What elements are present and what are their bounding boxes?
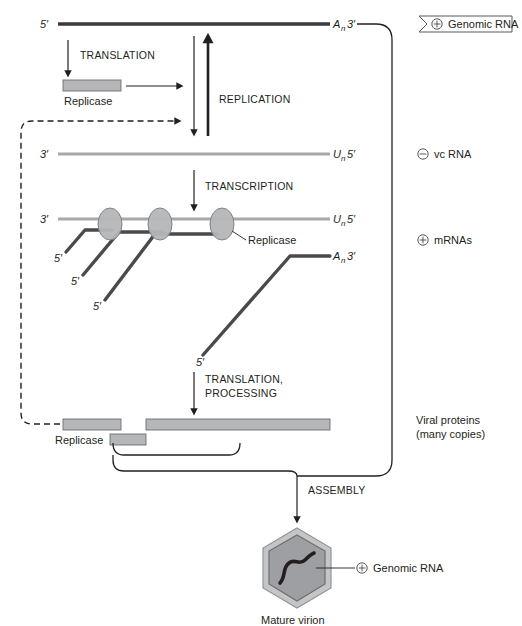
genomic-rna-3prime-label: 3′ bbox=[347, 18, 356, 30]
mrna-template-5prime-label: 5′ bbox=[347, 213, 356, 225]
genomic-rna-side-banner: Genomic RNA bbox=[419, 16, 519, 32]
viral-protein-bar-small bbox=[110, 434, 146, 445]
replicase-product-label: Replicase bbox=[55, 434, 103, 446]
genomic-to-assembly-connector bbox=[297, 24, 392, 476]
mrna-transcript-4-5prime: 5′ bbox=[196, 356, 205, 368]
dashed-feedback-arrow-icon bbox=[21, 121, 178, 424]
replication-arrows-group: REPLICATION bbox=[194, 36, 290, 136]
translation-arrow-group: TRANSLATION bbox=[68, 40, 155, 74]
transcription-arrow-group: TRANSCRIPTION bbox=[194, 170, 293, 208]
plus-circle-glyph bbox=[420, 237, 427, 244]
viral-proteins-label-line2: (many copies) bbox=[416, 428, 485, 440]
genomic-rna-group: 5′ A n 3′ bbox=[40, 18, 356, 33]
genomic-rna-5prime-label: 5′ bbox=[40, 18, 49, 30]
mrna-transcript-4-polya: A bbox=[332, 250, 340, 262]
mrna-synthesis-group: 3′ U n 5′ Replicase 5′ 5′ 5′ 5′ A n bbox=[40, 208, 356, 368]
vc-rna-side-label: vc RNA bbox=[434, 148, 472, 160]
viral-protein-bars-group: Replicase bbox=[55, 419, 330, 446]
vc-rna-5prime-label: 5′ bbox=[347, 148, 356, 160]
viral-proteins-side-label-group: Viral proteins (many copies) bbox=[416, 414, 485, 440]
replicase-protein-bar bbox=[63, 80, 121, 91]
transcription-label: TRANSCRIPTION bbox=[205, 180, 293, 192]
mrna-template-polyu-label: U bbox=[333, 213, 341, 225]
mature-virion-label: Mature virion bbox=[261, 614, 325, 626]
genomic-rna-side-label: Genomic RNA bbox=[448, 18, 519, 30]
virion-genomic-rna-label: Genomic RNA bbox=[373, 562, 444, 574]
mrna-template-polyu-subscript: n bbox=[341, 219, 346, 228]
mrna-side-label-group: mRNAs bbox=[418, 234, 473, 246]
replicase-callout-leader bbox=[232, 231, 246, 240]
vc-rna-3prime-label: 3′ bbox=[40, 148, 49, 160]
assembly-arrow-group: ASSEMBLY bbox=[297, 476, 365, 520]
mrna-transcript-4-complete bbox=[203, 256, 330, 355]
replicase-callout-label: Replicase bbox=[248, 234, 296, 246]
mrna-transcript-3-5prime: 5′ bbox=[93, 300, 102, 312]
mrna-transcript-4-3prime: 3′ bbox=[347, 250, 356, 262]
mrna-transcript-2-5prime: 5′ bbox=[71, 275, 80, 287]
vc-rna-polyu-label: U bbox=[333, 148, 341, 160]
mrna-template-3prime-label: 3′ bbox=[40, 213, 49, 225]
replicase-oval-icon bbox=[210, 208, 234, 240]
virus-replication-diagram: 5′ A n 3′ Genomic RNA TRANSLATION Replic… bbox=[0, 0, 522, 626]
replicase-protein-label: Replicase bbox=[64, 95, 112, 107]
mrna-side-label: mRNAs bbox=[434, 234, 472, 246]
genomic-rna-polya-subscript: n bbox=[341, 24, 346, 33]
replicase-oval-icon bbox=[148, 208, 172, 240]
translation-processing-label-line2: PROCESSING bbox=[205, 387, 277, 399]
plus-circle-glyph bbox=[359, 565, 366, 572]
vc-rna-polyu-subscript: n bbox=[341, 154, 346, 163]
viral-proteins-label-line1: Viral proteins bbox=[416, 414, 480, 426]
brace-stem-connector bbox=[113, 455, 297, 476]
replicase-product-bar bbox=[63, 419, 121, 430]
vc-rna-group: 3′ U n 5′ bbox=[40, 148, 356, 163]
mrna-transcript-3 bbox=[105, 234, 217, 300]
assembly-label: ASSEMBLY bbox=[308, 484, 365, 496]
mature-virion-group: Genomic RNA Mature virion bbox=[261, 528, 444, 626]
translation-processing-arrow-group: TRANSLATION, PROCESSING bbox=[194, 372, 283, 412]
mrna-transcript-1-5prime: 5′ bbox=[54, 252, 63, 264]
vc-rna-side-label-group: vc RNA bbox=[418, 148, 472, 160]
figure-canvas: 5′ A n 3′ Genomic RNA TRANSLATION Replic… bbox=[0, 0, 522, 626]
genomic-rna-polya-label: A bbox=[332, 18, 340, 30]
replicase-oval-icon bbox=[98, 208, 122, 240]
translation-label: TRANSLATION bbox=[80, 49, 155, 61]
viral-protein-bar-large bbox=[146, 419, 330, 430]
translation-processing-label-line1: TRANSLATION, bbox=[205, 373, 283, 385]
protein-brace-group bbox=[113, 443, 297, 476]
mrna-transcript-4-polya-subscript: n bbox=[341, 256, 346, 265]
replicase-protein-group: Replicase bbox=[63, 80, 180, 107]
replication-label: REPLICATION bbox=[219, 93, 290, 105]
